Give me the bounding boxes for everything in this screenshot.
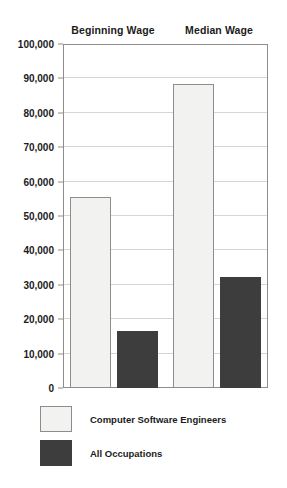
bar-dark-group-1 [220, 277, 261, 388]
bars-layer [63, 44, 268, 388]
legend-swatch-dark [40, 440, 72, 466]
y-tick-label: 30,000 [23, 279, 54, 290]
bar-light-group-0 [70, 197, 111, 388]
legend-swatch-light [40, 406, 72, 432]
bar-light-group-1 [173, 84, 214, 388]
legend-label-all-occupations: All Occupations [90, 448, 162, 459]
y-tick-label: 80,000 [23, 107, 54, 118]
legend-item-all-occupations: All Occupations [40, 440, 280, 474]
legend-item-computer-software-engineers: Computer Software Engineers [40, 406, 280, 440]
y-tick-label: 50,000 [23, 211, 54, 222]
bar-dark-group-0 [117, 331, 158, 388]
y-tick-label: 10,000 [23, 348, 54, 359]
bar-chart-figure: Beginning Wage Median Wage 010,00020,000… [0, 0, 287, 488]
y-tick-label: 40,000 [23, 245, 54, 256]
y-tick-label: 90,000 [23, 73, 54, 84]
y-axis: 010,00020,00030,00040,00050,00060,00070,… [0, 44, 63, 388]
y-tick-label: 70,000 [23, 142, 54, 153]
legend-label-computer-software-engineers: Computer Software Engineers [90, 414, 226, 425]
category-label-median-wage: Median Wage [167, 24, 271, 36]
y-tick-label: 60,000 [23, 176, 54, 187]
category-label-beginning-wage: Beginning Wage [61, 24, 165, 36]
y-tick-label: 100,000 [18, 39, 54, 50]
category-labels: Beginning Wage Median Wage [63, 24, 269, 40]
y-tick-label: 0 [48, 383, 54, 394]
chart-legend: Computer Software Engineers All Occupati… [40, 406, 280, 474]
y-tick-label: 20,000 [23, 314, 54, 325]
